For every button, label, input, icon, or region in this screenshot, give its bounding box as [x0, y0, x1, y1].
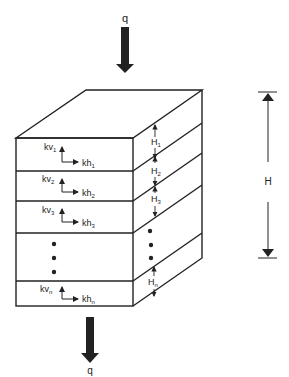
soil-block — [16, 90, 202, 306]
layer-2-permeability: kv2 kh2 — [42, 174, 96, 199]
layer-3-permeability: kv3 kh3 — [42, 205, 96, 229]
svg-text:H2: H2 — [151, 166, 162, 177]
svg-text:Hn: Hn — [148, 277, 158, 288]
load-label-top: q — [122, 12, 128, 24]
svg-text:kh2: kh2 — [82, 188, 96, 199]
svg-text:khn: khn — [82, 294, 95, 305]
ellipsis-dots-side — [148, 229, 153, 260]
svg-text:kh3: kh3 — [82, 218, 96, 229]
svg-text:kv1: kv1 — [44, 142, 57, 153]
top-face — [16, 90, 202, 138]
thickness-H3: H3 — [151, 187, 162, 216]
layered-soil-diagram: q kv1 kh1 kv2 kh2 kv3 — [0, 0, 289, 377]
total-height-label: H — [264, 176, 271, 187]
load-arrow-top: q — [116, 12, 134, 73]
svg-text:H3: H3 — [151, 194, 162, 205]
svg-text:kv3: kv3 — [42, 205, 55, 216]
svg-text:kh1: kh1 — [82, 158, 96, 169]
thickness-H2: H2 — [151, 157, 162, 185]
svg-text:H1: H1 — [151, 137, 162, 148]
svg-text:kv2: kv2 — [42, 174, 55, 185]
ellipsis-dots-front — [52, 242, 56, 274]
load-arrow-bottom: q — [81, 317, 99, 376]
layer-1-permeability: kv1 kh1 — [44, 142, 96, 169]
layer-n-permeability: kvn khn — [40, 284, 95, 305]
total-height-dimension: H — [258, 92, 277, 258]
svg-text:kvn: kvn — [40, 284, 52, 295]
load-label-bottom: q — [87, 365, 93, 376]
